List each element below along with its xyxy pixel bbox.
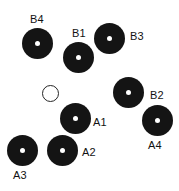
marker-label-a4: A4 bbox=[148, 139, 162, 151]
marker-label-a1: A1 bbox=[93, 116, 107, 128]
diagram-canvas: B4B1B3B2A1A4A2A3 bbox=[0, 0, 179, 191]
marker-label-b1: B1 bbox=[72, 27, 86, 39]
marker-disc-b4[interactable] bbox=[22, 28, 53, 59]
marker-disc-a3[interactable] bbox=[7, 135, 38, 166]
open-circle-marker[interactable] bbox=[42, 85, 59, 102]
marker-disc-b2[interactable] bbox=[113, 77, 144, 108]
marker-label-a3: A3 bbox=[13, 169, 27, 181]
marker-disc-b3[interactable] bbox=[94, 23, 125, 54]
marker-disc-b1[interactable] bbox=[63, 42, 94, 73]
marker-disc-a1[interactable] bbox=[60, 103, 91, 134]
marker-label-b2: B2 bbox=[150, 89, 164, 101]
marker-label-a2: A2 bbox=[82, 146, 96, 158]
marker-disc-a2[interactable] bbox=[47, 135, 78, 166]
marker-label-b3: B3 bbox=[130, 30, 144, 42]
marker-disc-a4[interactable] bbox=[142, 105, 173, 136]
marker-label-b4: B4 bbox=[30, 13, 44, 25]
